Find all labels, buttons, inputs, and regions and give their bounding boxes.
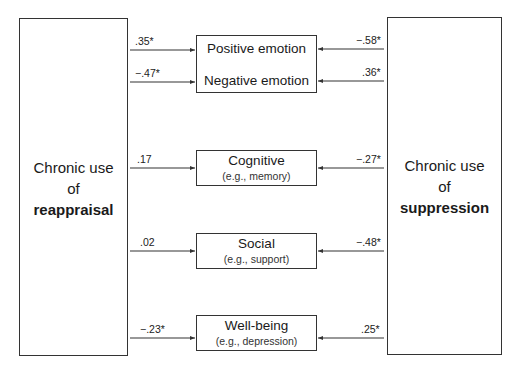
suppression-box: Chronic use of suppression xyxy=(387,17,502,355)
emotion-box: Positive emotion Negative emotion xyxy=(196,35,317,93)
suppression-label-line1: Chronic use xyxy=(388,155,501,176)
coef-suppression-well-being: .25* xyxy=(361,323,380,335)
coef-reappraisal-negative: −.47* xyxy=(135,67,160,79)
coef-suppression-social: −.48* xyxy=(356,236,381,248)
reappraisal-box: Chronic use of reappraisal xyxy=(19,18,128,356)
cognitive-example: (e.g., memory) xyxy=(197,170,316,182)
coef-suppression-positive: −.58* xyxy=(356,34,381,46)
positive-emotion-label: Positive emotion xyxy=(197,41,316,56)
well-being-example: (e.g., depression) xyxy=(197,335,316,347)
suppression-label-bold: suppression xyxy=(400,199,489,216)
cognitive-label: Cognitive xyxy=(197,153,316,168)
negative-emotion-label: Negative emotion xyxy=(197,73,316,88)
coef-reappraisal-well-being: −.23* xyxy=(140,323,165,335)
social-label: Social xyxy=(197,236,316,251)
coef-reappraisal-positive: .35* xyxy=(135,35,154,47)
reappraisal-label-bold: reappraisal xyxy=(33,201,113,218)
coef-reappraisal-cognitive: .17 xyxy=(137,153,152,165)
reappraisal-label-line1: Chronic use xyxy=(20,157,127,178)
suppression-label: Chronic use of suppression xyxy=(388,155,501,218)
coef-suppression-cognitive: −.27* xyxy=(356,153,381,165)
reappraisal-label-line2: of xyxy=(20,178,127,199)
social-example: (e.g., support) xyxy=(197,253,316,265)
reappraisal-label: Chronic use of reappraisal xyxy=(20,157,127,220)
well-being-label: Well-being xyxy=(197,318,316,333)
coef-suppression-negative: .36* xyxy=(362,66,381,78)
well-being-box: Well-being (e.g., depression) xyxy=(196,315,317,351)
social-box: Social (e.g., support) xyxy=(196,233,317,269)
coef-reappraisal-social: .02 xyxy=(140,236,155,248)
cognitive-box: Cognitive (e.g., memory) xyxy=(196,150,317,186)
suppression-label-line2: of xyxy=(388,176,501,197)
